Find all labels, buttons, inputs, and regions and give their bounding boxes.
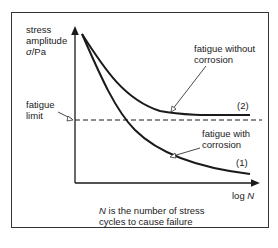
fatigue-limit-pointer-icon [67,116,73,121]
curve2-pointer-icon [171,106,176,112]
y-axis-label: stress amplitude σ/Pa [26,24,67,57]
fatigue-limit-label: fatigue limit [26,99,55,121]
curve2-number: (2) [237,100,249,111]
x-axis-label: log N [232,190,254,201]
curve2-label: fatigue without corrosion [194,43,255,65]
curve2-leader [172,66,206,110]
curve1-number: (1) [236,157,248,168]
curve1-label: fatigue with corrosion [202,128,250,150]
caption: N is the number of stress cycles to caus… [99,205,205,227]
curve1-leader [173,148,200,156]
